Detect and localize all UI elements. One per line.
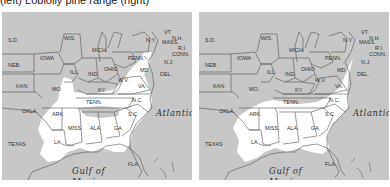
label-mass: MASS. (359, 39, 376, 45)
label-penn: PENN. (325, 55, 341, 61)
label-gulf-1: Gulf of (72, 166, 107, 176)
label-sc: S.C. (325, 111, 335, 117)
map-right: S.D. WIS. MICH. N.Y. VT. N.H. MASS. R.I.… (199, 12, 389, 180)
label-ny: N.Y. (343, 37, 353, 43)
label-la: LA. (251, 139, 259, 145)
label-ohio: OHIO (104, 66, 118, 72)
label-atlantic: Atlantic (352, 108, 389, 118)
label-del: DEL. (160, 71, 172, 77)
label-atlantic: Atlantic (155, 108, 192, 118)
label-okla: OKLA. (22, 108, 38, 114)
label-gulf-2: Mexico (71, 177, 107, 180)
label-nj: N.J. (361, 59, 371, 65)
label-ind: IND. (285, 71, 296, 77)
label-ny: N.Y. (146, 37, 156, 43)
label-miss: MISS. (265, 125, 280, 131)
label-ala: ALA. (90, 125, 102, 131)
figure-caption: (left) Loblolly pine range (right) (0, 0, 149, 6)
label-wis: WIS. (261, 35, 273, 41)
label-okla: OKLA. (219, 108, 235, 114)
label-ark: ARK. (52, 111, 65, 117)
map-left-svg: S.D. WIS. MICH. N.Y. VT. N.H. MASS. R.I.… (2, 12, 192, 180)
label-tenn: TENN. (283, 99, 299, 105)
label-md: MD. (140, 67, 150, 73)
label-vt: VT. (361, 29, 369, 35)
label-texas: TEXAS (205, 141, 223, 147)
label-ohio: OHIO (301, 66, 315, 72)
map-right-svg: S.D. WIS. MICH. N.Y. VT. N.H. MASS. R.I.… (199, 12, 389, 180)
label-nj: N.J. (164, 59, 174, 65)
label-la: LA. (54, 139, 62, 145)
label-tenn: TENN. (86, 99, 102, 105)
label-mich: MICH. (92, 47, 107, 53)
label-conn: CONN. (369, 51, 386, 57)
label-fla: FLA. (128, 161, 139, 167)
label-ky: KY. (295, 87, 303, 93)
label-iowa: IOWA (237, 55, 252, 61)
label-ga: GA. (114, 125, 123, 131)
label-ga: GA. (311, 125, 320, 131)
label-md: MD. (337, 67, 347, 73)
label-ind: IND. (88, 71, 99, 77)
label-sd: S.D. (8, 37, 18, 43)
label-gulf-2: Mexico (268, 177, 304, 180)
label-fla: FLA. (325, 161, 336, 167)
label-sd: S.D. (205, 37, 215, 43)
label-texas: TEXAS (8, 141, 26, 147)
label-kan: KAN. (213, 83, 226, 89)
label-va: VA. (138, 83, 146, 89)
label-conn: CONN. (172, 51, 189, 57)
label-ill: ILL. (267, 69, 276, 75)
label-kan: KAN. (16, 83, 29, 89)
label-nc: N.C. (329, 97, 340, 103)
label-miss: MISS. (68, 125, 83, 131)
label-mich: MICH. (289, 47, 304, 53)
label-mo: MO. (249, 86, 259, 92)
label-wv: W.V. (315, 77, 326, 83)
label-va: VA. (335, 83, 343, 89)
label-sc: S.C. (128, 111, 138, 117)
label-gulf-1: Gulf of (269, 166, 304, 176)
map-left: S.D. WIS. MICH. N.Y. VT. N.H. MASS. R.I.… (2, 12, 192, 180)
label-del: DEL. (357, 71, 369, 77)
label-ill: ILL. (70, 69, 79, 75)
label-penn: PENN. (128, 55, 144, 61)
label-mass: MASS. (162, 39, 179, 45)
label-iowa: IOWA (40, 55, 55, 61)
label-mo: MO. (52, 86, 62, 92)
label-nc: N.C. (132, 97, 143, 103)
label-neb: NEB. (205, 62, 218, 68)
label-ark: ARK. (249, 111, 262, 117)
label-neb: NEB. (8, 62, 21, 68)
label-wis: WIS. (64, 35, 76, 41)
label-wv: W.V. (118, 77, 129, 83)
label-vt: VT. (164, 29, 172, 35)
label-ala: ALA. (287, 125, 299, 131)
label-ky: KY. (98, 87, 106, 93)
